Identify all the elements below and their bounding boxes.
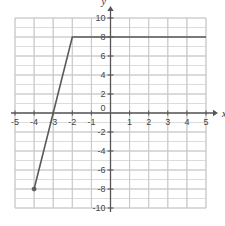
x-tick-label: 2 xyxy=(146,117,151,127)
x-tick-label: 4 xyxy=(184,117,189,127)
y-tick-label: 10 xyxy=(95,13,105,23)
x-tick-label: 5 xyxy=(203,117,208,127)
x-tick-label: -2 xyxy=(68,117,76,127)
y-tick-label: 6 xyxy=(100,51,105,61)
x-tick-label: -4 xyxy=(30,117,38,127)
y-tick-label: -8 xyxy=(97,184,105,194)
y-tick-label: -4 xyxy=(97,146,105,156)
coordinate-plane-chart: -5-4-3-2-112345 -10-8-6-4-20246810 x y xyxy=(0,0,225,226)
y-axis-label: y xyxy=(101,0,107,7)
x-tick-label: 3 xyxy=(165,117,170,127)
y-tick-label: -2 xyxy=(97,127,105,137)
y-tick-label: 0 xyxy=(100,103,105,113)
x-tick-label: 1 xyxy=(127,117,132,127)
x-tick-label: -1 xyxy=(87,117,95,127)
x-axis-label: x xyxy=(221,108,225,119)
endpoint-marker xyxy=(32,187,36,191)
y-tick-label: -6 xyxy=(97,165,105,175)
graph-figure: -5-4-3-2-112345 -10-8-6-4-20246810 x y xyxy=(0,0,225,226)
y-tick-label: 4 xyxy=(100,70,105,80)
x-tick-label: -5 xyxy=(11,117,19,127)
y-tick-label: 2 xyxy=(100,89,105,99)
y-tick-label: -10 xyxy=(92,203,105,213)
